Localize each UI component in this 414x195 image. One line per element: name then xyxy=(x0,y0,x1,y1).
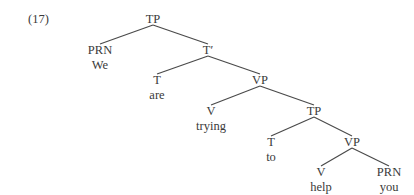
leaf-word-t1: are xyxy=(149,88,164,102)
node-label-prn1: PRN xyxy=(88,43,112,57)
edge-vp1-tp2 xyxy=(260,86,314,105)
leaf-word-v2: help xyxy=(310,180,332,194)
leaf-word-t2: to xyxy=(266,150,276,164)
node-label-vp1: VP xyxy=(252,73,268,87)
node-label-v1: V xyxy=(206,104,215,118)
node-label-tbar: T′ xyxy=(203,43,213,57)
node-label-tp2: TP xyxy=(307,104,322,118)
edge-tp1-tbar xyxy=(153,25,208,44)
node-label-v2: V xyxy=(316,165,325,179)
edge-vp1-v1 xyxy=(211,86,260,105)
leaf-word-v1: trying xyxy=(196,119,226,133)
edge-tp2-vp2 xyxy=(314,117,352,136)
node-label-vp2: VP xyxy=(344,135,360,149)
edge-tp2-t2 xyxy=(271,117,314,136)
leaf-word-prn1: We xyxy=(92,58,108,72)
leaf-word-prn2: you xyxy=(380,180,399,194)
node-label-t2: T xyxy=(267,135,275,149)
tree-edges xyxy=(0,0,414,195)
node-label-prn2: PRN xyxy=(377,165,401,179)
edge-vp2-v2 xyxy=(321,148,352,166)
edge-tbar-vp1 xyxy=(208,56,260,74)
node-label-t1: T xyxy=(153,73,161,87)
edge-tbar-t1 xyxy=(157,56,208,74)
edge-tp1-prn1 xyxy=(100,25,153,44)
edge-vp2-prn2 xyxy=(352,148,389,166)
node-label-tp1: TP xyxy=(146,12,161,26)
